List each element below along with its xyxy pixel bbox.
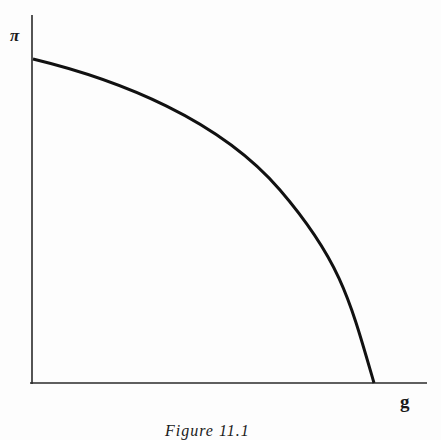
figure-caption: Figure 11.1 bbox=[165, 422, 250, 440]
y-axis-label: π bbox=[10, 26, 19, 46]
curve bbox=[33, 59, 374, 383]
x-axis-label: g bbox=[400, 391, 410, 413]
